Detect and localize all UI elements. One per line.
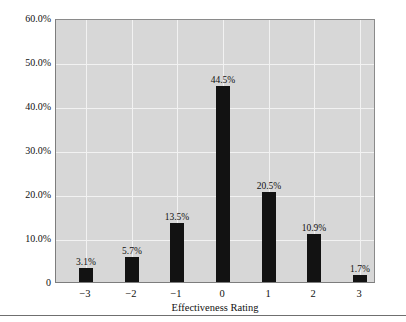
x-tick--3: −3 xyxy=(65,288,105,300)
x-tick--1: −1 xyxy=(156,288,196,300)
x-tick-0: 0 xyxy=(202,288,242,300)
data-label-rating-0: 44.5% xyxy=(201,75,245,86)
data-label-rating-2: 10.9% xyxy=(292,223,336,234)
plot-area: 3.1% 5.7% 13.5% 44.5% 20.5% 10.9% 1.7% xyxy=(55,19,375,283)
gridline-10 xyxy=(56,240,374,241)
bar-rating-1 xyxy=(262,192,276,282)
gridline-50 xyxy=(56,64,374,65)
y-tick-10: 10.0% xyxy=(1,234,51,244)
y-axis-tick-labels: 60.0% 50.0% 40.0% 30.0% 20.0% 10.0% 0 xyxy=(0,0,51,322)
gridline-cat--2 xyxy=(132,20,133,282)
x-axis-title: Effectiveness Rating xyxy=(55,302,375,314)
data-label-rating-1: 20.5% xyxy=(247,181,291,192)
x-axis-tick-labels: −3 −2 −1 0 1 2 3 xyxy=(55,288,375,302)
y-tick-60: 60.0% xyxy=(1,14,51,24)
gridline-30 xyxy=(56,152,374,153)
bar-rating--1 xyxy=(170,223,184,282)
y-tick-30: 30.0% xyxy=(1,146,51,156)
x-tick-2: 2 xyxy=(293,288,333,300)
data-label-rating--2: 5.7% xyxy=(110,246,154,257)
x-tick--2: −2 xyxy=(111,288,151,300)
y-tick-20: 20.0% xyxy=(1,190,51,200)
y-tick-0: 0 xyxy=(1,278,51,288)
y-tick-50: 50.0% xyxy=(1,58,51,68)
gridline-cat--3 xyxy=(86,20,87,282)
bar-rating-3 xyxy=(353,275,367,282)
data-label-rating-3: 1.7% xyxy=(338,264,382,275)
bar-rating-0 xyxy=(216,86,230,282)
x-tick-1: 1 xyxy=(248,288,288,300)
bar-rating-2 xyxy=(307,234,321,282)
x-tick-3: 3 xyxy=(339,288,379,300)
gridline-cat-3 xyxy=(360,20,361,282)
y-tick-40: 40.0% xyxy=(1,102,51,112)
data-label-rating--1: 13.5% xyxy=(155,212,199,223)
bottom-divider xyxy=(0,315,406,316)
gridline-40 xyxy=(56,108,374,109)
bar-rating--3 xyxy=(79,268,93,282)
gridline-20 xyxy=(56,196,374,197)
data-label-rating--3: 3.1% xyxy=(64,257,108,268)
bar-chart-figure: 60.0% 50.0% 40.0% 30.0% 20.0% 10.0% 0 3.… xyxy=(0,0,406,322)
bar-rating--2 xyxy=(125,257,139,282)
